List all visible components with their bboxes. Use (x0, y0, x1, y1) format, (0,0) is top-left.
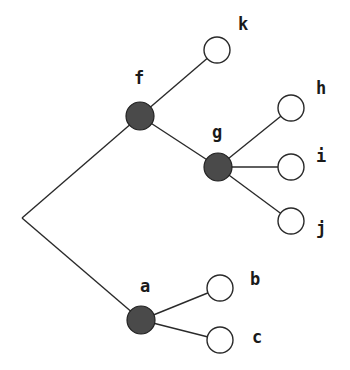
node-label-h: h (316, 78, 326, 98)
edges-layer (22, 50, 291, 340)
node-a (127, 306, 155, 334)
tree-diagram: fgakhijbc (0, 0, 350, 370)
edge-f-k (140, 50, 217, 116)
node-b (207, 275, 233, 301)
edge-root-a (22, 218, 141, 320)
node-label-g: g (212, 122, 222, 142)
node-label-k: k (238, 14, 248, 34)
node-c (207, 327, 233, 353)
node-k (204, 37, 230, 63)
node-j (278, 208, 304, 234)
node-g (204, 153, 232, 181)
nodes-layer (126, 37, 304, 353)
node-i (278, 154, 304, 180)
node-label-j: j (316, 218, 326, 238)
node-label-f: f (134, 68, 144, 88)
node-f (126, 102, 154, 130)
tree-canvas: fgakhijbc (0, 0, 350, 370)
node-label-b: b (250, 269, 260, 289)
node-label-a: a (140, 276, 150, 296)
node-label-i: i (316, 146, 326, 166)
edge-root-f (22, 116, 140, 218)
node-h (278, 95, 304, 121)
node-label-c: c (252, 327, 262, 347)
